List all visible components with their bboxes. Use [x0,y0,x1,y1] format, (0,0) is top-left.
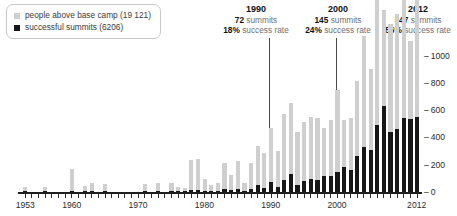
bar-segment-people-above-base-camp [388,24,392,132]
annotation-rate-value: 24% [305,25,322,35]
annotation-summits-label: summits [331,15,362,25]
bar-segment-successful-summits [415,117,419,192]
bar-slot [122,46,129,192]
bar-segment-successful-summits [322,176,326,192]
x-axis-tick [334,193,341,198]
bar-segment-people-above-base-camp [362,36,366,147]
x-axis-tick [35,193,42,198]
bar [156,183,160,192]
bar [395,14,399,192]
plot-area [22,46,420,192]
bar [329,120,333,192]
x-axis-tick [135,193,142,198]
x-axis-tick [327,193,334,198]
bar-segment-successful-summits [375,125,379,192]
bar [369,69,373,192]
bar-segment-successful-summits [408,119,412,192]
bar [408,41,412,192]
x-axis-tick [374,193,381,198]
x-axis-tick [294,193,301,198]
x-axis-tick [148,193,155,198]
x-axis-tick [215,193,222,198]
annotation-summits-value: 145 [314,15,328,25]
bar-slot [394,46,401,192]
bar [388,24,392,192]
bar-segment-people-above-base-camp [203,179,207,191]
bar [103,184,107,192]
bar-segment-people-above-base-camp [302,122,306,181]
bar-slot [22,46,29,192]
annotation-rate-label: success rate [404,25,451,35]
bar-segment-successful-summits [335,172,339,192]
x-axis-tick [122,193,129,198]
bar-segment-people-above-base-camp [289,103,293,174]
bar-segment-successful-summits [269,182,273,192]
bar [229,175,233,192]
bar [282,114,286,192]
square-swatch-icon [14,25,20,31]
bar-slot [221,46,228,192]
bar [315,118,319,192]
x-axis-tick [102,193,109,198]
x-axis-tick [221,193,228,198]
x-axis-tick [115,193,122,198]
x-axis-tick [354,193,361,198]
bar-slot [401,46,408,192]
bar-segment-people-above-base-camp [382,10,386,106]
bar-segment-people-above-base-camp [262,153,266,188]
x-axis-tick [268,193,275,198]
bar-slot [374,46,381,192]
bar-slot [248,46,255,192]
x-axis-tick [161,193,168,198]
x-axis-tick [414,193,421,198]
x-axis-tick [208,193,215,198]
x-axis-tick [261,193,268,198]
bar-slot [188,46,195,192]
y-axis-label: –400 [424,132,445,142]
bar-slot [334,46,341,192]
x-axis-tick [281,193,288,198]
x-axis-label: 2012 [407,200,426,210]
bar-slot [102,46,109,192]
x-axis-tick [241,193,248,198]
bar [322,128,326,192]
bar-slot [155,46,162,192]
bar-slot [274,46,281,192]
chart-root: people above base camp (19 121) successf… [0,0,457,216]
bar-segment-people-above-base-camp [276,151,280,186]
x-axis-tick [75,193,82,198]
bar [249,163,253,192]
bar-segment-successful-summits [349,170,353,192]
bar-segment-successful-summits [289,174,293,192]
bar-segment-people-above-base-camp [90,183,94,191]
bar-slot [414,46,421,192]
y-axis-label: –0 [424,187,436,197]
x-axis-tick [88,193,95,198]
bar [415,0,419,192]
bar-segment-people-above-base-camp [169,183,173,191]
legend-label: people above base camp (19 121) [25,10,151,21]
bar-segment-successful-summits [402,118,406,192]
annotation-summits-value: 72 [235,15,244,25]
bar-slot [168,46,175,192]
x-axis-label: 1980 [195,200,214,210]
bar-segment-successful-summits [329,176,333,192]
bar-segment-successful-summits [382,106,386,192]
x-axis-label: 1970 [129,200,148,210]
x-axis-tick [201,193,208,198]
bar-segment-people-above-base-camp [329,120,333,177]
bar-slot [128,46,135,192]
bar-segment-successful-summits [395,129,399,192]
bar-slot [308,46,315,192]
bar [242,183,246,192]
bar [375,0,379,192]
bar [189,160,193,192]
bar-slot [208,46,215,192]
bar-slot [407,46,414,192]
x-axis-tick [49,193,56,198]
bar-segment-people-above-base-camp [342,120,346,167]
bar-segment-people-above-base-camp [335,90,339,172]
x-axis-tick [62,193,69,198]
bar-segment-people-above-base-camp [236,161,240,190]
bar [203,179,207,192]
